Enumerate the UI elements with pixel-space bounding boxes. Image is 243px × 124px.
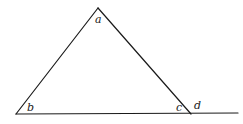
diagram-canvas: a b c d bbox=[0, 0, 243, 124]
angle-label-b: b bbox=[27, 101, 34, 114]
angle-label-c: c bbox=[176, 101, 182, 114]
triangle-diagram: a b c d bbox=[0, 0, 243, 124]
angle-label-d: d bbox=[194, 99, 201, 112]
side-right bbox=[98, 8, 191, 114]
baseline-extended bbox=[16, 113, 238, 114]
side-left bbox=[16, 8, 98, 114]
angle-label-a: a bbox=[95, 13, 102, 26]
